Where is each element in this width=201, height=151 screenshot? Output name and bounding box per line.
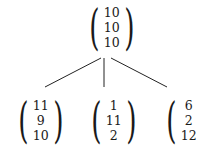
left-paren: ( (91, 96, 101, 144)
edge-root-to-child-1 (45, 58, 101, 87)
left-paren: ( (166, 96, 176, 144)
root-entry-2: 10 (104, 20, 120, 35)
child-1-entry-1: 11 (33, 98, 49, 113)
root-entry-3: 10 (104, 35, 120, 50)
child-1-entry-3: 10 (33, 128, 49, 143)
child-vector-1: ( 11 9 10 ) (14, 96, 67, 144)
root-vector: ( 10 10 10 ) (85, 3, 138, 51)
child-1-entry-2: 9 (37, 113, 45, 128)
child-2-entry-3: 2 (110, 128, 118, 143)
child-3-entry-1: 6 (185, 98, 193, 113)
child-2-entry-2: 11 (106, 113, 122, 128)
right-paren: ) (126, 96, 136, 144)
edge-root-to-child-3 (111, 58, 167, 87)
left-paren: ( (18, 96, 28, 144)
child-3-entry-3: 12 (181, 128, 197, 143)
left-paren: ( (89, 3, 99, 51)
child-vector-3: ( 6 2 12 ) (162, 96, 201, 144)
child-2-entry-1: 1 (110, 98, 118, 113)
right-paren: ) (124, 3, 134, 51)
right-paren: ) (53, 96, 63, 144)
child-vector-2: ( 1 11 2 ) (87, 96, 140, 144)
child-3-entry-2: 2 (185, 113, 193, 128)
root-entry-1: 10 (104, 5, 120, 20)
